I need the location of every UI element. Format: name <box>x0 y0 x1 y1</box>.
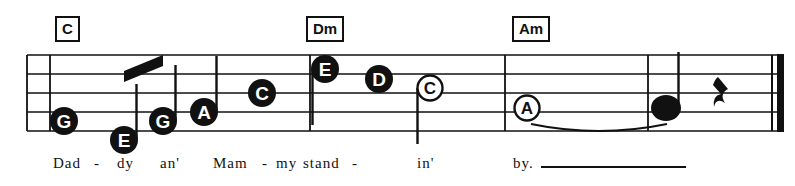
lyric-syllable: by. <box>513 155 534 172</box>
rests <box>713 77 728 107</box>
chord-symbol-am[interactable]: Am <box>512 16 550 42</box>
lyric-syllable: dy <box>117 155 134 172</box>
notehead-filled-plain <box>651 95 681 121</box>
lyric-syllable: - <box>352 155 358 172</box>
beam <box>124 55 163 82</box>
sheet-music-page: GEGACEDCA CDmAm Dad-dyan'Mam-mystand-in'… <box>0 0 795 186</box>
quarter-rest-icon <box>713 77 728 107</box>
tie-slur <box>531 124 667 131</box>
lyric-syllable: Dad <box>53 155 81 172</box>
note-c: C <box>418 76 443 145</box>
lyric-syllable: in' <box>417 155 434 172</box>
lyric-syllable: Mam <box>213 155 248 172</box>
notehead-letter: C <box>255 83 269 104</box>
notehead-letter: G <box>156 111 171 132</box>
lyric-syllable: - <box>94 155 100 172</box>
notehead-letter: E <box>118 130 131 151</box>
notehead-letter: E <box>319 59 332 80</box>
lyric-syllable: my <box>276 155 297 172</box>
note-e: E <box>110 84 138 154</box>
note-c: C <box>248 79 276 107</box>
notehead-letter: A <box>197 102 211 123</box>
note-a: A <box>515 96 540 121</box>
notehead-letter: G <box>57 111 72 132</box>
note-e: E <box>311 55 339 125</box>
note-d: D <box>365 65 393 93</box>
lyric-syllable: - <box>262 155 268 172</box>
note-g: G <box>149 65 177 135</box>
lyric-syllable: an' <box>160 155 180 172</box>
chord-symbol-dm[interactable]: Dm <box>306 16 344 42</box>
notehead-letter: D <box>372 69 386 90</box>
chord-symbol-c[interactable]: C <box>55 16 80 42</box>
notehead-letter: C <box>424 79 436 98</box>
notehead-letter: A <box>521 99 533 118</box>
note-g: G <box>50 107 78 135</box>
note-beams <box>124 55 163 82</box>
final-barline-thick <box>777 54 784 132</box>
note-a: A <box>190 56 218 126</box>
note-plain <box>651 52 681 121</box>
lyric-extender-line <box>541 166 686 168</box>
lyric-syllable: stand <box>303 155 340 172</box>
note-ties <box>531 124 667 131</box>
